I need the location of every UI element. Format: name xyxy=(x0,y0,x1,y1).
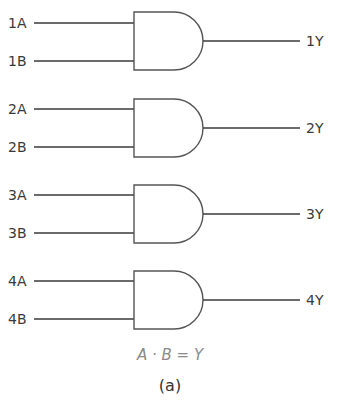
input-label-1b: 1B xyxy=(8,53,27,69)
input-label-4b: 4B xyxy=(8,311,27,327)
and-gate-body-1 xyxy=(134,12,203,70)
figure-caption: (a) xyxy=(159,376,181,395)
boolean-equation: A · B = Y xyxy=(136,346,205,364)
input-label-3a: 3A xyxy=(8,187,27,203)
output-label-3y: 3Y xyxy=(306,206,324,222)
and-gate-body-4 xyxy=(134,271,203,329)
input-label-2a: 2A xyxy=(8,101,27,117)
input-label-2b: 2B xyxy=(8,139,27,155)
and-gate-3: 3A 3B 3Y xyxy=(8,185,324,243)
input-label-1a: 1A xyxy=(8,15,27,31)
and-gate-4: 4A 4B 4Y xyxy=(8,271,324,329)
and-gate-body-3 xyxy=(134,185,203,243)
input-label-3b: 3B xyxy=(8,225,27,241)
and-gate-1: 1A 1B 1Y xyxy=(8,12,324,70)
output-label-4y: 4Y xyxy=(306,292,324,308)
and-gate-body-2 xyxy=(134,99,203,157)
and-gate-diagram: 1A 1B 1Y 2A 2B 2Y 3A 3B 3Y 4A 4B 4Y A · xyxy=(0,0,338,413)
output-label-1y: 1Y xyxy=(306,33,324,49)
and-gate-2: 2A 2B 2Y xyxy=(8,99,324,157)
input-label-4a: 4A xyxy=(8,273,27,289)
output-label-2y: 2Y xyxy=(306,120,324,136)
